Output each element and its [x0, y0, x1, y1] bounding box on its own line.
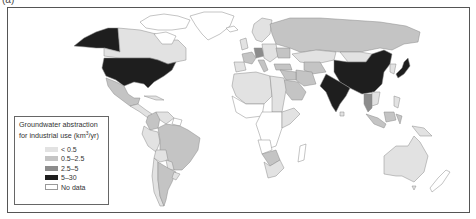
region-russia [270, 18, 420, 52]
region-new-zealand [430, 170, 450, 192]
region-germany [254, 48, 264, 58]
legend-title: Groundwater abstraction for industrial u… [19, 120, 104, 140]
region-caribbean [144, 96, 164, 100]
legend-item-25-5: 2.5–5 [45, 163, 104, 173]
region-scandinavia [252, 18, 272, 42]
legend-label: < 0.5 [61, 146, 77, 153]
region-alaska [74, 28, 120, 52]
region-png [412, 126, 432, 136]
region-japan [396, 58, 410, 78]
region-uk [240, 38, 248, 50]
legend-item-lt05: < 0.5 [45, 144, 104, 154]
legend-label: 0.5–2.5 [61, 155, 84, 162]
region-greenland [190, 12, 234, 40]
legend-swatch [45, 166, 58, 171]
legend-title-line1: Groundwater abstraction [19, 120, 104, 129]
region-east-africa [282, 108, 300, 128]
legend-item-no-data: No data [45, 182, 104, 192]
region-italy [258, 60, 268, 72]
map-legend: Groundwater abstraction for industrial u… [14, 116, 109, 205]
region-madagascar [298, 144, 306, 162]
legend-item-05-25: 0.5–2.5 [45, 154, 104, 164]
region-indonesia [366, 114, 386, 128]
legend-item-5-30: 5–30 [45, 173, 104, 183]
region-korea [390, 64, 396, 74]
region-thailand [364, 94, 372, 112]
region-brazil [158, 124, 200, 170]
region-eastern-europe [262, 44, 278, 62]
legend-items: < 0.5 0.5–2.5 2.5–5 5–30 No data [45, 144, 104, 192]
region-tasmania [412, 186, 416, 190]
legend-swatch [45, 156, 58, 161]
region-arctic-islands [140, 14, 190, 30]
region-philippines [394, 96, 400, 108]
legend-label: 2.5–5 [61, 165, 79, 172]
region-guianas [172, 118, 182, 126]
region-se-asia [372, 92, 380, 106]
region-ukraine [276, 48, 290, 58]
region-sri-lanka [340, 112, 344, 116]
legend-swatch [45, 175, 58, 180]
legend-label: No data [61, 184, 86, 191]
region-indonesia-borneo [384, 112, 396, 122]
region-australia [384, 136, 428, 182]
region-iberia [234, 62, 246, 72]
region-indonesia-east [396, 114, 402, 124]
legend-swatch [45, 184, 58, 190]
legend-title-line2: for industrial use (km3/yr) [19, 129, 104, 140]
region-turkey [274, 64, 292, 70]
legend-label: 5–30 [61, 174, 77, 181]
region-egypt-sudan [270, 76, 286, 112]
legend-swatch [45, 147, 58, 152]
